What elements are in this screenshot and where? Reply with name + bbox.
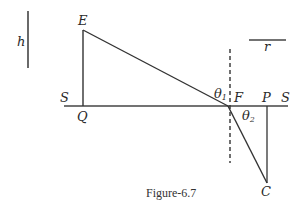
label-E: E: [77, 13, 88, 28]
svg-text:θ1: θ1: [214, 86, 227, 102]
refraction-diagram: h r E Q S F P S C θ1 θ2 Figure-6.7: [0, 0, 304, 208]
label-F: F: [233, 90, 244, 105]
label-h: h: [17, 34, 25, 49]
label-Q: Q: [77, 109, 88, 124]
label-S-right: S: [281, 90, 290, 105]
svg-text:θ2: θ2: [242, 108, 255, 124]
label-r: r: [264, 39, 271, 54]
label-theta2: θ2: [242, 108, 255, 124]
incident-ray: [83, 30, 228, 106]
label-theta1: θ1: [214, 86, 227, 102]
label-C: C: [261, 184, 271, 199]
label-S-left: S: [60, 90, 69, 105]
figure-caption: Figure-6.7: [146, 186, 196, 200]
label-P: P: [261, 90, 271, 105]
